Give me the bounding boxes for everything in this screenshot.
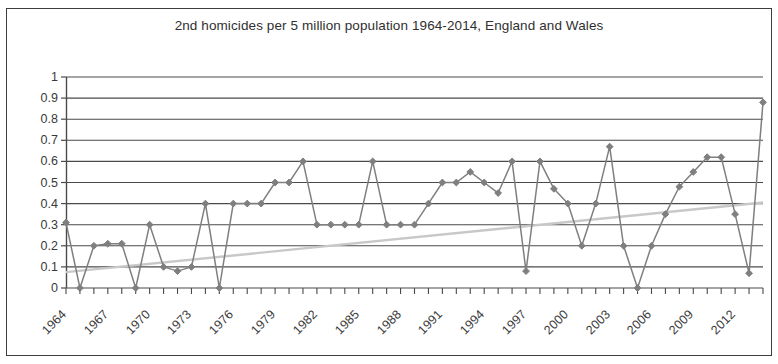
data-point-marker [230,200,237,207]
data-point-marker [578,242,585,249]
y-axis-tick-label: 0.3 [12,218,58,231]
y-axis-tick-label: 0.9 [12,92,58,105]
x-axis-tick-label: 2006 [625,307,655,337]
plot-area [66,77,763,288]
data-point-marker [606,143,613,150]
data-point-marker [355,221,362,228]
x-axis-tick-label: 1991 [416,307,446,337]
data-point-marker [314,221,321,228]
y-axis-tick-label: 0.2 [12,240,58,253]
y-axis-tick-label: 0.1 [12,261,58,274]
x-axis-tick-label: 1973 [165,307,195,337]
x-axis-tick-label: 2003 [583,307,613,337]
x-axis-tick-label: 1979 [248,307,278,337]
data-point-marker [146,221,153,228]
x-axis-tick-label: 1982 [290,307,320,337]
data-point-marker [732,211,739,218]
data-point-marker [718,154,725,161]
data-point-marker [620,242,627,249]
data-point-marker [327,221,334,228]
x-axis-labels: 1964196719701973197619791982198519881991… [0,292,778,362]
data-point-marker [202,200,209,207]
x-axis-tick-label: 1997 [499,307,529,337]
y-axis-tick-label: 0.5 [12,176,58,189]
y-axis-tick-label: 0.7 [12,134,58,147]
data-point-marker [537,158,544,165]
data-point-marker [341,221,348,228]
y-axis-labels: 00.10.20.30.40.50.60.70.80.91 [8,77,58,288]
x-axis-tick-label: 1970 [123,307,153,337]
data-point-marker [188,264,195,271]
x-axis-tick-label: 1964 [39,307,69,337]
data-point-marker [746,270,753,277]
x-axis-tick-label: 2012 [708,307,738,337]
y-axis-tick-label: 1 [12,71,58,84]
data-point-marker [369,158,376,165]
data-point-marker [244,200,251,207]
y-axis-tick-label: 0.6 [12,155,58,168]
x-axis-tick-label: 2009 [666,307,696,337]
trend-line [66,203,763,273]
x-axis-tick-label: 1988 [374,307,404,337]
y-axis-tick-label: 0.8 [12,113,58,126]
x-axis-tick-label: 1976 [206,307,236,337]
data-point-marker [90,242,97,249]
data-point-marker [160,264,167,271]
plot-svg [66,77,763,288]
x-axis-tick-label: 1994 [457,307,487,337]
chart-container: 2nd homicides per 5 million population 1… [0,0,778,364]
x-axis-tick-label: 1985 [332,307,362,337]
y-axis-tick-label: 0.4 [12,197,58,210]
data-point-marker [509,158,516,165]
x-axis-tick-label: 2000 [541,307,571,337]
data-point-marker [383,221,390,228]
data-point-marker [523,268,530,275]
data-point-marker [592,200,599,207]
data-point-marker [648,242,655,249]
x-axis-tick-label: 1967 [81,307,111,337]
chart-title: 2nd homicides per 5 million population 1… [0,18,778,33]
data-point-marker [397,221,404,228]
data-point-marker [174,268,181,275]
data-line [66,102,763,288]
